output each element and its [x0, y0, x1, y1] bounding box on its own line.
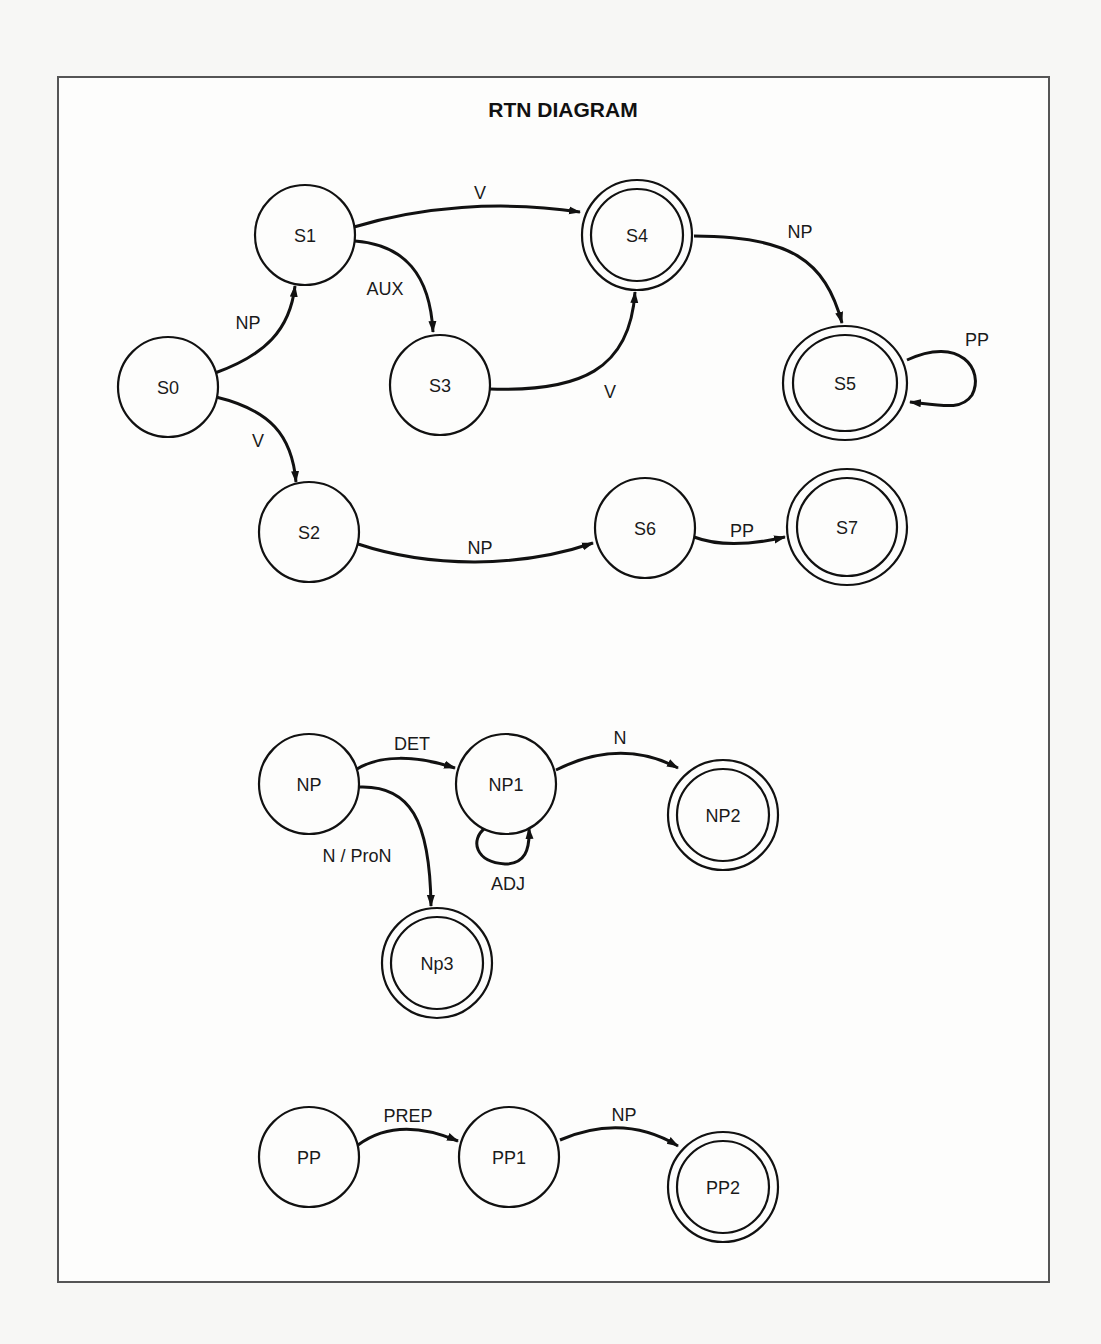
edge-S1-S4	[354, 206, 580, 227]
node-label-S0: S0	[157, 378, 179, 398]
edge-label-S3-S4: V	[604, 382, 616, 402]
edge-label-PP-PP1: PREP	[383, 1106, 432, 1126]
edge-PP-PP1	[358, 1129, 458, 1145]
edge-PP1-PP2	[560, 1128, 678, 1146]
edge-labels: NP V V AUX V NP PP NP PP DET N / ProN AD…	[235, 183, 989, 1126]
node-label-S6: S6	[634, 519, 656, 539]
edge-label-S4-S5: NP	[787, 222, 812, 242]
edge-label-NP-NP1: DET	[394, 734, 430, 754]
edge-NP-NP1	[357, 758, 455, 769]
node-label-S3: S3	[429, 376, 451, 396]
edge-label-S1-S3: AUX	[366, 279, 403, 299]
edge-label-NP1-loop: ADJ	[491, 874, 525, 894]
edge-NP1-NP2	[556, 753, 678, 770]
edge-label-S6-S7: PP	[730, 521, 754, 541]
edge-S5-loop	[907, 351, 975, 405]
edge-label-S5-loop: PP	[965, 330, 989, 350]
edge-label-S2-S6: NP	[467, 538, 492, 558]
edge-label-S0-S2: V	[252, 431, 264, 451]
node-label-PP1: PP1	[492, 1148, 526, 1168]
node-label-PP2: PP2	[706, 1178, 740, 1198]
node-label-S7: S7	[836, 518, 858, 538]
edge-label-PP1-PP2: NP	[611, 1105, 636, 1125]
node-label-S2: S2	[298, 523, 320, 543]
node-label-S1: S1	[294, 226, 316, 246]
edge-S4-S5	[694, 236, 842, 323]
node-labels: S0 S1 S2 S3 S4 S5 S6 S7 NP NP1 NP2 Np3 P…	[157, 226, 858, 1198]
node-label-NP: NP	[296, 775, 321, 795]
node-label-S5: S5	[834, 374, 856, 394]
edge-label-NP1-NP2: N	[614, 728, 627, 748]
edge-S3-S4	[490, 292, 635, 389]
nodes	[118, 180, 907, 1242]
node-label-Np3: Np3	[420, 954, 453, 974]
rtn-diagram-canvas: S0 S1 S2 S3 S4 S5 S6 S7 NP NP1 NP2 Np3 P…	[0, 0, 1101, 1344]
edge-label-S0-S1: NP	[235, 313, 260, 333]
node-label-NP1: NP1	[488, 775, 523, 795]
edge-label-NP-Np3: N / ProN	[322, 846, 391, 866]
node-label-PP: PP	[297, 1148, 321, 1168]
node-label-NP2: NP2	[705, 806, 740, 826]
edge-label-S1-S4: V	[474, 183, 486, 203]
node-label-S4: S4	[626, 226, 648, 246]
